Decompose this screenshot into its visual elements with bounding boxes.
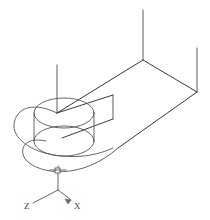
edge-apex-to-right xyxy=(143,60,197,92)
through-hole xyxy=(34,98,94,156)
rounded-end-contour xyxy=(14,107,118,172)
axis-x-arrowhead xyxy=(65,199,71,204)
axis-origin-node xyxy=(55,168,60,173)
drawing-canvas: Z X xyxy=(0,0,210,220)
axis-z-line xyxy=(33,190,58,203)
hole-bottom-ellipse xyxy=(34,126,94,156)
vertical-construction-lines xyxy=(57,10,197,119)
axis-label-z: Z xyxy=(24,201,30,211)
hole-top-ellipse xyxy=(34,98,94,128)
isometric-wireframe: Z X xyxy=(0,0,210,220)
edge-apex-to-left xyxy=(57,60,143,113)
top-face-outline xyxy=(57,60,197,148)
axis-label-x: X xyxy=(74,201,81,211)
edge-right-to-front xyxy=(118,92,197,148)
coordinate-axes: Z X xyxy=(24,166,81,211)
axis-x-line xyxy=(58,190,71,200)
